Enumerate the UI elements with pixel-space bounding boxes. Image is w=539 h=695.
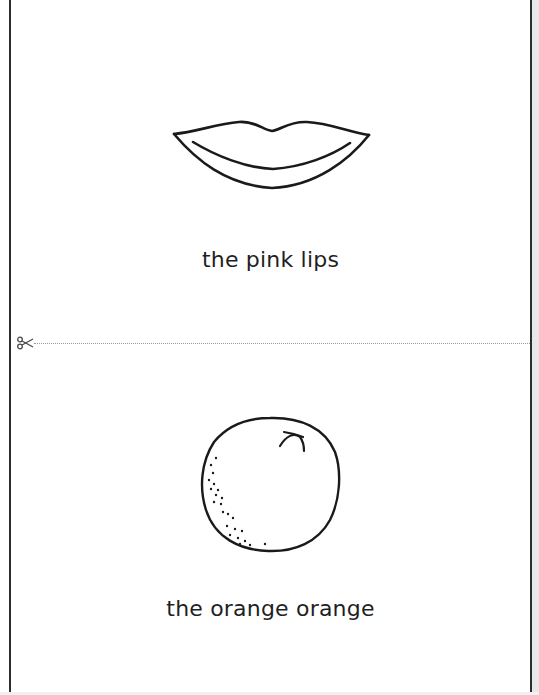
worksheet-page: the pink lips [0, 0, 539, 695]
lips-icon [169, 115, 379, 195]
flashcard-lips: the pink lips [11, 0, 530, 343]
orange-fruit-icon [196, 412, 346, 557]
page-edge-shadow [532, 0, 539, 695]
flashcard-orange: the orange orange [11, 344, 530, 692]
card-caption: the orange orange [11, 596, 530, 621]
card-caption: the pink lips [11, 247, 530, 272]
